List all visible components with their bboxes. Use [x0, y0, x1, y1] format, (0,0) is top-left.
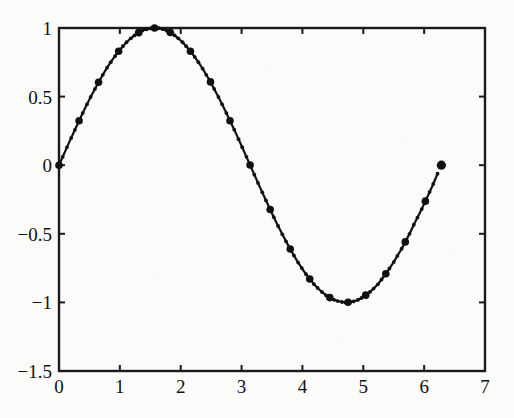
x-tick-label: 2	[176, 377, 186, 396]
data-point	[392, 260, 396, 264]
data-point	[264, 198, 268, 202]
data-point	[300, 266, 304, 270]
data-point	[69, 136, 73, 140]
data-point	[121, 44, 125, 48]
data-point	[296, 261, 300, 265]
data-point	[320, 290, 324, 294]
data-point	[201, 67, 205, 71]
data-point	[81, 111, 85, 115]
data-point	[408, 232, 412, 236]
data-point	[332, 298, 336, 302]
data-point	[115, 48, 123, 56]
data-point	[336, 299, 340, 303]
data-point	[422, 197, 430, 205]
data-point	[176, 36, 180, 40]
data-point	[260, 190, 264, 194]
y-tick-label: −0.5	[18, 224, 52, 243]
data-point	[109, 60, 113, 64]
data-point	[252, 173, 256, 177]
data-point	[280, 232, 284, 236]
data-point	[93, 87, 97, 91]
data-point	[376, 282, 380, 286]
data-point	[95, 78, 103, 86]
x-tick-label: 6	[419, 377, 429, 396]
data-point	[306, 275, 314, 283]
data-point	[237, 137, 241, 141]
y-tick-label: −1	[32, 293, 52, 312]
figure-canvas: 10.50−0.5−1−1.5 01234567	[0, 0, 514, 418]
data-point	[428, 190, 432, 194]
data-point	[368, 290, 372, 294]
data-point	[340, 300, 344, 304]
data-point	[101, 73, 105, 77]
data-point	[312, 282, 316, 286]
data-point	[436, 172, 440, 176]
x-tick-label: 7	[480, 377, 490, 396]
data-point	[207, 78, 215, 86]
data-point	[292, 254, 296, 258]
data-point	[113, 54, 117, 58]
x-tick-label: 3	[237, 377, 247, 396]
data-point	[73, 128, 77, 132]
data-point	[304, 272, 308, 276]
data-point	[388, 267, 392, 271]
y-tick-label: −1.5	[18, 362, 52, 381]
data-point	[193, 55, 197, 59]
data-point	[232, 128, 236, 132]
data-point	[352, 300, 356, 304]
data-point	[416, 216, 420, 220]
data-point	[125, 40, 129, 44]
data-point	[245, 155, 249, 159]
data-point	[145, 27, 149, 31]
data-point	[412, 223, 416, 227]
data-point	[284, 239, 288, 243]
data-point	[316, 286, 320, 290]
data-point	[420, 207, 424, 211]
data-point-endpoint	[437, 161, 446, 170]
data-point	[89, 95, 93, 99]
data-point	[161, 27, 165, 31]
data-point	[173, 34, 177, 38]
data-point	[382, 270, 390, 278]
data-point	[55, 161, 63, 169]
data-point	[431, 182, 435, 186]
data-point	[75, 117, 83, 125]
series-0	[55, 24, 446, 306]
data-point	[226, 117, 234, 125]
data-point	[272, 215, 276, 219]
data-point	[85, 102, 89, 106]
data-point	[276, 224, 280, 228]
x-tick-label: 4	[298, 377, 308, 396]
data-point	[246, 161, 254, 169]
y-tick-label: 0	[43, 156, 53, 175]
x-tick-label: 5	[359, 377, 369, 396]
data-point	[356, 298, 360, 302]
data-point	[181, 40, 185, 44]
data-point	[184, 44, 188, 48]
data-point	[256, 181, 260, 185]
x-tick-label: 0	[54, 377, 64, 396]
sine-plot	[0, 0, 514, 418]
data-point	[286, 245, 294, 253]
data-point	[240, 145, 244, 149]
data-point	[187, 48, 195, 56]
data-point	[217, 95, 221, 99]
y-tick-label: 0.5	[28, 87, 52, 106]
axis-ticks	[59, 28, 485, 371]
data-point	[65, 145, 69, 149]
data-point	[266, 206, 274, 214]
data-point	[224, 111, 228, 115]
data-point	[220, 102, 224, 106]
data-point	[157, 26, 161, 30]
data-point	[196, 60, 200, 64]
x-tick-label: 1	[115, 377, 125, 396]
data-point	[105, 66, 109, 70]
data-point	[129, 36, 133, 40]
data-point	[380, 278, 384, 282]
data-point	[401, 238, 409, 246]
y-tick-label: 1	[43, 19, 53, 38]
data-point	[395, 254, 399, 258]
data-point	[140, 29, 144, 33]
data-point	[400, 247, 404, 251]
data-point	[372, 287, 376, 291]
